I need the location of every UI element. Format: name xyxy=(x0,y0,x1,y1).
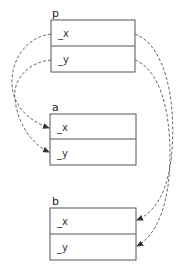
object-p-field-y: _y xyxy=(57,54,69,66)
object-p-label: p xyxy=(52,7,59,20)
diagram-svg: p _x _y a _x _y b _x _y xyxy=(0,0,182,276)
object-b: b _x _y xyxy=(50,195,136,260)
object-p: p _x _y xyxy=(51,7,135,72)
arrow-p-y-to-a-y xyxy=(15,60,51,152)
object-a-label: a xyxy=(52,101,59,114)
object-a-field-y: _y xyxy=(56,148,68,160)
object-p-field-x: _x xyxy=(57,28,69,40)
diagram-canvas: p _x _y a _x _y b _x _y xyxy=(0,0,182,276)
object-b-label: b xyxy=(52,195,59,208)
arrow-p-x-to-b-x xyxy=(135,34,173,220)
object-b-field-x: _x xyxy=(56,216,68,228)
object-b-field-y: _y xyxy=(56,242,68,254)
object-a-field-x: _x xyxy=(56,122,68,134)
object-a: a _x _y xyxy=(50,101,136,165)
